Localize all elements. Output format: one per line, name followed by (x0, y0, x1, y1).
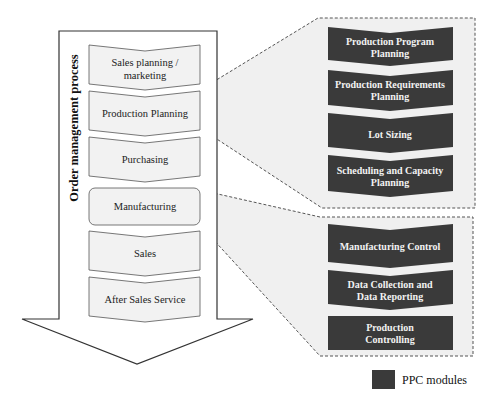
manufacturing-modules: Manufacturing Control Data Collection an… (328, 224, 453, 350)
module-label: Data Collection and (348, 279, 433, 290)
module-label: Planning (371, 91, 409, 102)
module-label: Manufacturing Control (340, 241, 441, 252)
process-title: Order management process (67, 54, 81, 202)
ppc-diagram: Order management process Sales planning … (0, 0, 492, 406)
module-label: Lot Sizing (368, 129, 412, 140)
legend: PPC modules (372, 370, 467, 389)
module-label: Production Requirements (335, 79, 445, 90)
module-scheduling-capacity-planning (328, 155, 453, 197)
module-data-collection-reporting (328, 270, 453, 310)
legend-label: PPC modules (402, 373, 467, 387)
module-label: Planning (371, 177, 409, 188)
module-label: Data Reporting (357, 291, 423, 302)
step-after-sales-service-label: After Sales Service (104, 294, 185, 305)
step-sales-planning-label-2: marketing (124, 70, 167, 81)
module-label: Planning (371, 48, 409, 59)
module-label: Production Program (346, 36, 435, 47)
step-sales-label: Sales (134, 248, 156, 259)
module-label: Scheduling and Capacity (337, 165, 444, 176)
module-label: Controlling (365, 334, 414, 345)
module-label: Production (366, 322, 414, 333)
step-manufacturing-label: Manufacturing (114, 201, 177, 212)
step-production-planning-label: Production Planning (102, 108, 189, 119)
legend-swatch (372, 370, 395, 389)
step-sales-planning-label-1: Sales planning / (111, 57, 178, 68)
step-purchasing-label: Purchasing (122, 154, 169, 165)
